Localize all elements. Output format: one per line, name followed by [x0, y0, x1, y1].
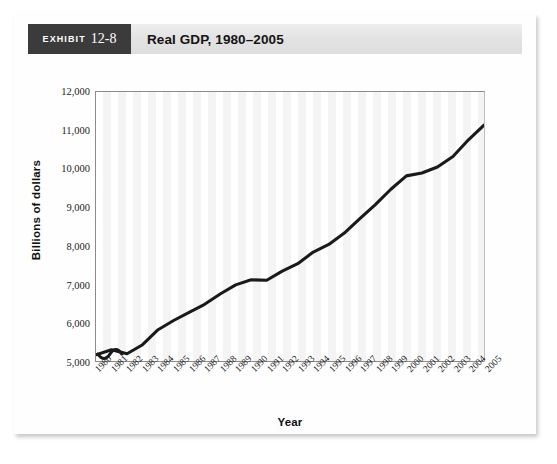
x-tick-label: 2005 — [483, 354, 504, 375]
chart-area: Billions of dollars 12,00011,00010,0009,… — [14, 54, 536, 434]
plot-frame — [95, 91, 485, 362]
y-tick-label: 5,000 — [66, 357, 90, 368]
exhibit-title: Real GDP, 1980–2005 — [131, 24, 522, 54]
y-tick-label: 8,000 — [66, 240, 90, 251]
y-tick-label: 9,000 — [66, 202, 90, 213]
exhibit-label: EXHIBIT — [43, 34, 86, 44]
y-tick-label: 10,000 — [61, 163, 90, 174]
y-tick-label: 6,000 — [66, 318, 90, 329]
y-tick-label: 7,000 — [66, 279, 90, 290]
exhibit-header-bar: EXHIBIT 12-8 Real GDP, 1980–2005 — [28, 24, 522, 54]
x-axis-title: Year — [95, 416, 485, 428]
exhibit-figure-card: EXHIBIT 12-8 Real GDP, 1980–2005 Billion… — [14, 14, 536, 434]
exhibit-badge: EXHIBIT 12-8 — [28, 24, 131, 54]
gdp-line-chart — [96, 92, 484, 361]
gdp-line-series — [96, 125, 484, 355]
y-tick-label: 11,000 — [62, 124, 91, 135]
y-axis-tick-labels: 12,00011,00010,0009,0008,0007,0006,0005,… — [34, 54, 90, 434]
x-axis-tick-labels: 1980198119821983198419851986198719881989… — [95, 363, 485, 423]
exhibit-number: 12-8 — [91, 31, 117, 47]
y-tick-label: 12,000 — [61, 86, 90, 97]
